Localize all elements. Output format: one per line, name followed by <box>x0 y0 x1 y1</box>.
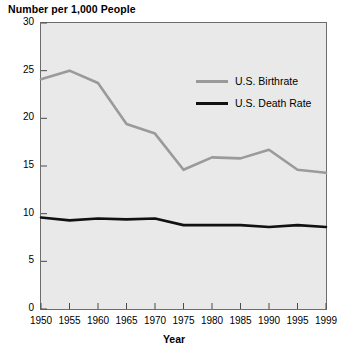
legend-label-death-rate: U.S. Death Rate <box>235 97 311 109</box>
y-axis-tick-label: 30 <box>4 16 34 27</box>
chart-legend: U.S. Birthrate U.S. Death Rate <box>196 70 311 114</box>
y-axis-tick-label: 20 <box>4 111 34 122</box>
legend-swatch-birthrate-icon <box>196 80 228 83</box>
legend-label-birthrate: U.S. Birthrate <box>235 75 298 87</box>
chart-title: Number per 1,000 People <box>8 3 136 15</box>
plot-area <box>40 22 327 310</box>
legend-item-death-rate: U.S. Death Rate <box>196 92 311 114</box>
y-axis-tick-label: 25 <box>4 64 34 75</box>
x-axis-title: Year <box>0 333 348 345</box>
y-axis-tick-label: 0 <box>4 302 34 313</box>
legend-swatch-death-rate-icon <box>196 102 228 105</box>
chart-container: Number per 1,000 People 051015202530 195… <box>0 0 348 357</box>
y-axis-tick-label: 10 <box>4 207 34 218</box>
y-axis-tick-label: 15 <box>4 159 34 170</box>
y-axis-tick-label: 5 <box>4 254 34 265</box>
x-axis-tick-label: 1999 <box>306 315 346 326</box>
legend-item-birthrate: U.S. Birthrate <box>196 70 311 92</box>
